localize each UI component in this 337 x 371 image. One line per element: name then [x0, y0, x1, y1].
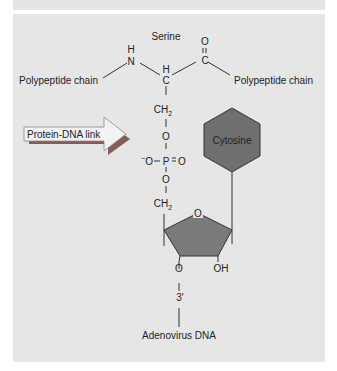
- atom-o-minus: −O: [141, 155, 153, 167]
- atom-carbonyl-c: C: [201, 55, 208, 66]
- polypeptide-chain-right: Polypeptide chain: [234, 75, 313, 86]
- atom-ca-h: H: [162, 64, 169, 75]
- protein-dna-link-label: Protein-DNA link: [27, 129, 101, 140]
- serine-title: Serine: [152, 31, 181, 42]
- atom-3-prime: 3': [176, 292, 184, 303]
- serine-dna-linkage-diagram: Cytosine Protein-DNA link Serine Polypep…: [0, 0, 337, 371]
- atom-labels: H N H C O C CH2 O −O P O O CH2 O O OH 3': [127, 36, 228, 303]
- atom-ring-o: O: [194, 208, 202, 219]
- backbone-bonds: [103, 48, 232, 327]
- atom-ca: C: [162, 75, 169, 86]
- atom-n: N: [127, 56, 134, 67]
- atom-carbonyl-o: O: [201, 36, 209, 47]
- sugar-pentagon: [164, 213, 232, 256]
- atom-ch2-bottom: CH2: [154, 198, 172, 211]
- atom-o-link: O: [162, 131, 170, 142]
- atom-p-double-o: O: [178, 156, 186, 167]
- atom-oh: OH: [214, 263, 229, 274]
- atom-ch2-top: CH2: [154, 104, 172, 117]
- adenovirus-dna-label: Adenovirus DNA: [142, 330, 216, 341]
- protein-dna-link-arrow: Protein-DNA link: [24, 117, 130, 155]
- o3-bond: [179, 256, 180, 262]
- atom-p: P: [163, 156, 170, 167]
- atom-n-h: H: [127, 44, 134, 55]
- polypeptide-chain-left: Polypeptide chain: [19, 75, 98, 86]
- atom-o-lower: O: [162, 174, 170, 185]
- atom-o3: O: [175, 263, 183, 274]
- cytosine-label: Cytosine: [213, 135, 252, 146]
